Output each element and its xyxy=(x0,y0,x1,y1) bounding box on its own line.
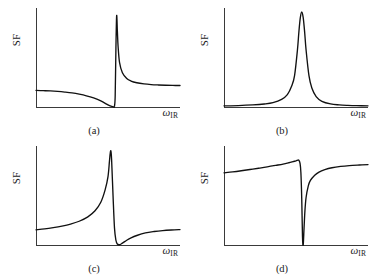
panel-c-y-axis-label: SF xyxy=(10,170,22,186)
panel-a-x-axis-label: ωIR xyxy=(163,106,178,120)
panel-b-plot xyxy=(188,0,376,137)
panel-a-plot xyxy=(0,0,188,137)
panel-c-caption: (c) xyxy=(0,263,188,274)
panel-a-x-axis-subscript: IR xyxy=(170,110,178,119)
panel-d-plot xyxy=(188,138,376,275)
panel-b: SF ωIR (b) xyxy=(188,0,376,137)
panel-d-x-axis-subscript: IR xyxy=(358,248,366,257)
panel-c: SF ωIR (c) xyxy=(0,138,188,275)
panel-b-caption: (b) xyxy=(188,125,376,136)
panel-a: SF ωIR (a) xyxy=(0,0,188,137)
panel-c-curve xyxy=(36,151,180,245)
panel-c-plot xyxy=(0,138,188,275)
panel-b-axes xyxy=(224,8,368,107)
figure-panel-grid: SF ωIR (a) SF ωIR (b) SF ωIR (c) SF ωIR … xyxy=(0,0,376,275)
panel-a-axes xyxy=(36,8,180,107)
panel-c-x-axis-subscript: IR xyxy=(170,248,178,257)
panel-d-y-axis-label: SF xyxy=(198,170,210,186)
panel-c-axes xyxy=(36,146,180,245)
panel-a-curve xyxy=(36,15,180,107)
panel-d-caption: (d) xyxy=(188,263,376,274)
panel-d: SF ωIR (d) xyxy=(188,138,376,275)
panel-d-x-axis-label: ωIR xyxy=(351,244,366,258)
panel-a-y-axis-label: SF xyxy=(10,32,22,48)
panel-b-x-axis-label: ωIR xyxy=(351,106,366,120)
panel-b-y-axis-label: SF xyxy=(198,32,210,48)
panel-b-curve xyxy=(224,12,368,106)
panel-c-x-axis-label: ωIR xyxy=(163,244,178,258)
panel-b-x-axis-subscript: IR xyxy=(358,110,366,119)
panel-d-curve xyxy=(224,160,368,245)
panel-a-caption: (a) xyxy=(0,125,188,136)
